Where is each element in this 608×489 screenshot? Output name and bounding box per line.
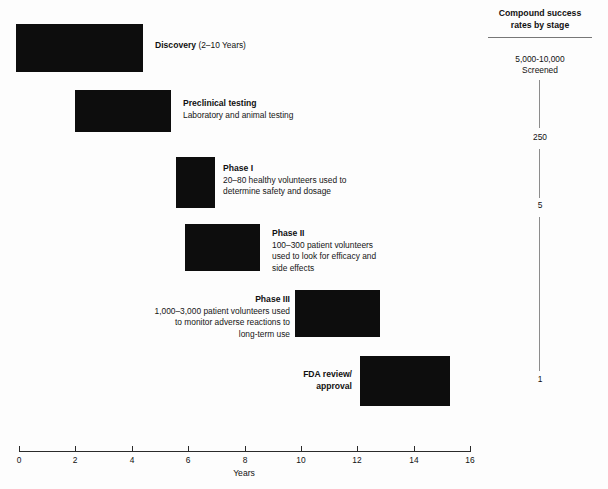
x-axis-line [19,451,470,452]
success-rates-title-line-2: rates by stage [484,20,596,32]
stage-desc-phase-iii-line-2: to monitor adverse reactions to [90,317,290,329]
success-rates-title: Compound success rates by stage [484,4,596,31]
success-funnel: 5,000-10,000 Screened 250 5 1 [484,48,596,393]
stage-title-phase-i: Phase I [223,163,346,175]
x-tick-10 [301,446,302,452]
stage-title-preclinical-testing: Preclinical testing [183,98,293,110]
stage-label-fda-review: FDA review/ approval [205,369,352,392]
stage-label-phase-iii: Phase III 1,000–3,000 patient volunteers… [90,294,290,340]
funnel-connector-1 [539,80,540,128]
stage-label-phase-i: Phase I 20–80 healthy volunteers used to… [223,163,346,198]
stage-note-discovery: (2–10 Years) [196,40,246,50]
bar-phase-i [176,157,215,208]
x-tick-12 [357,446,358,452]
success-rates-panel: Compound success rates by stage [484,4,596,38]
x-tick-label-4: 4 [130,455,135,465]
stage-desc-preclinical-line-1: Laboratory and animal testing [183,110,293,122]
stage-desc-phase-ii-line-2: used to look for efficacy and [272,251,376,263]
x-tick-2 [75,446,76,452]
success-rates-title-line-1: Compound success [484,8,596,20]
bar-phase-ii [185,224,260,271]
funnel-step-5: 5 [484,200,596,211]
x-tick-label-2: 2 [73,455,78,465]
stage-desc-phase-i-line-1: 20–80 healthy volunteers used to [223,175,346,187]
stage-title-fda-review: FDA review/ [205,369,352,381]
funnel-step-screened-line-2: Screened [484,65,596,76]
funnel-step-screened: 5,000-10,000 Screened [484,54,596,76]
success-rates-divider [488,37,592,38]
funnel-step-1: 1 [484,374,596,385]
stage-title-phase-ii: Phase II [272,228,376,240]
x-axis-title: Years [233,468,255,478]
stage-title-phase-iii: Phase III [90,294,290,306]
x-tick-14 [414,446,415,452]
x-tick-label-8: 8 [243,455,248,465]
x-tick-label-14: 14 [409,455,418,465]
stage-desc-phase-iii-line-1: 1,000–3,000 patient volunteers used [90,306,290,318]
funnel-step-250: 250 [484,132,596,143]
bar-discovery [16,24,143,72]
stage-desc-phase-ii-line-1: 100–300 patient volunteers [272,240,376,252]
stage-desc-phase-ii-line-3: side effects [272,263,376,275]
stage-title-fda-review-line-2: approval [205,381,352,393]
x-tick-label-12: 12 [352,455,361,465]
x-tick-0 [19,446,20,452]
stage-label-preclinical-testing: Preclinical testing Laboratory and anima… [183,98,293,121]
stage-label-phase-ii: Phase II 100–300 patient volunteers used… [272,228,376,274]
x-tick-label-0: 0 [17,455,22,465]
x-tick-16 [470,446,471,452]
funnel-connector-2 [539,149,540,198]
bar-fda-review [360,356,450,406]
x-tick-6 [188,446,189,452]
x-tick-label-6: 6 [186,455,191,465]
bar-preclinical-testing [75,90,171,132]
x-tick-4 [132,446,133,452]
x-tick-label-16: 16 [465,455,474,465]
chart-canvas: Discovery (2–10 Years) Preclinical testi… [0,0,608,489]
funnel-connector-3 [539,217,540,371]
stage-title-discovery: Discovery [155,40,196,50]
x-tick-label-10: 10 [296,455,305,465]
stage-label-discovery: Discovery (2–10 Years) [155,40,246,52]
funnel-step-screened-line-1: 5,000-10,000 [484,54,596,65]
x-tick-8 [245,446,246,452]
bar-phase-iii [295,290,380,337]
stage-desc-phase-i-line-2: determine safety and dosage [223,186,346,198]
stage-desc-phase-iii-line-3: long-term use [90,329,290,341]
